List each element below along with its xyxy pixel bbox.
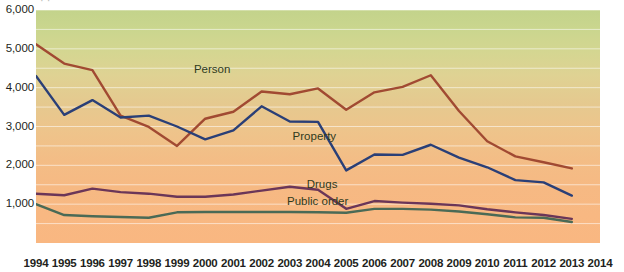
cropped-title-remnant: · · (40, 0, 240, 8)
line-chart: · · 1,0002,0003,0004,0005,0006,000 Perso… (0, 0, 624, 272)
y-tick-label: 1,000 (0, 198, 34, 210)
y-tick-label: 4,000 (0, 82, 34, 94)
series-line-person (36, 44, 572, 168)
x-axis: 1994199519961997199819992000200120022003… (0, 254, 624, 272)
y-axis: 1,0002,0003,0004,0005,0006,000 (0, 0, 34, 272)
series-label-public-order: Public order (287, 196, 348, 208)
x-tick-label: 2014 (580, 258, 620, 270)
y-tick-label: 6,000 (0, 4, 34, 16)
plot-lines (36, 10, 600, 243)
series-label-property: Property (293, 131, 336, 143)
series-label-drugs: Drugs (307, 179, 338, 191)
series-label-person: Person (194, 64, 230, 76)
y-tick-label: 3,000 (0, 121, 34, 133)
cropped-title-text: · · (40, 0, 240, 5)
plot-area: PersonPropertyDrugsPublic order (36, 10, 600, 243)
y-tick-label: 2,000 (0, 159, 34, 171)
y-tick-label: 5,000 (0, 43, 34, 55)
